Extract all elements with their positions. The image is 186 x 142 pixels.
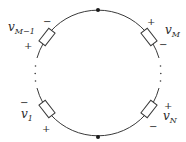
sign-vM-1-top: − — [43, 16, 51, 27]
ellipsis-left — [34, 65, 36, 82]
element-box-vM — [141, 28, 157, 46]
wire-bottom-arc — [51, 115, 145, 136]
wire-right-lower — [153, 88, 159, 103]
sign-vM-1-bottom: + — [24, 40, 32, 51]
sign-v1-bottom: + — [42, 123, 50, 134]
element-box-vM-1 — [39, 28, 55, 46]
wire-left-lower — [37, 88, 43, 103]
circuit-loop: vM−1 − + vM + − − v1 + + vN − — [0, 0, 186, 142]
top-node — [96, 8, 100, 12]
svg-text:vN: vN — [163, 109, 178, 125]
svg-text:vM: vM — [165, 23, 181, 39]
sign-vM-top: + — [147, 16, 155, 27]
element-box-v1 — [39, 100, 55, 118]
ellipsis-right — [160, 65, 162, 82]
element-box-vN — [141, 100, 157, 118]
svg-text:vM−1: vM−1 — [8, 20, 35, 36]
wire-left-upper — [37, 43, 44, 58]
wire-top-arc — [51, 10, 146, 31]
sign-vN-bottom: − — [149, 121, 157, 132]
bottom-node — [96, 135, 100, 139]
sign-vM-bottom: − — [159, 39, 167, 50]
circuit-diagram: vM−1 − + vM + − − v1 + + vN − — [0, 0, 186, 142]
svg-text:v1: v1 — [21, 107, 33, 123]
